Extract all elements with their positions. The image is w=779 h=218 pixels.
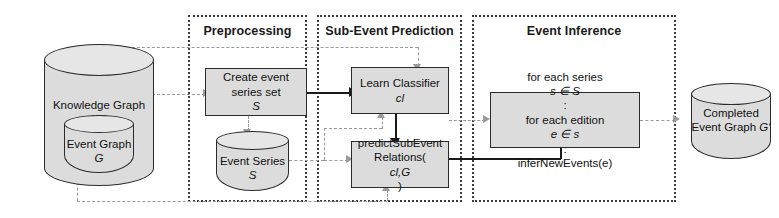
datastore-event-graph: Event Graph G <box>64 115 134 173</box>
learn-classifier-line1: Learn Classifier cl <box>360 76 440 105</box>
event-graph-symbol: G <box>95 152 104 164</box>
completed-event-graph-label-line1: Completed <box>703 107 759 119</box>
diagram-canvas: Preprocessing Sub-Event Prediction Event… <box>0 0 779 218</box>
event-series-label-line2: Series S <box>249 155 285 181</box>
create-event-series-line1: Create event <box>223 70 289 84</box>
edge-series-to-infer <box>449 120 485 121</box>
knowledge-graph-cylinder-top <box>44 44 154 76</box>
edge-event-series-to-predict <box>324 160 348 161</box>
edge-top-dashed-rail <box>132 47 418 48</box>
datastore-event-series: Event Series S <box>216 131 289 191</box>
event-series-label-line1: Event <box>220 155 249 167</box>
edge-event-series-riser <box>324 128 325 160</box>
predict-sub-event-line1: predictSubEvent <box>358 136 442 150</box>
process-predict-sub-event-relations: predictSubEvent Relations(cl,G) <box>351 141 449 188</box>
phase-title-sub-event-prediction: Sub-Event Prediction <box>313 24 466 38</box>
event-graph-label-line1: Event <box>67 138 96 150</box>
completed-event-graph-label: Completed Event Graph G′ <box>691 106 771 135</box>
datastore-completed-event-graph: Completed Event Graph G′ <box>691 83 771 159</box>
process-learn-classifier: Learn Classifier cl <box>351 67 449 114</box>
edge-infer-to-completed-arrowhead <box>673 115 680 123</box>
infer-new-events-series-symbol: s ∈ S <box>518 84 613 98</box>
event-series-symbol: S <box>249 169 257 181</box>
infer-new-events-line1: for each series s ∈ S: <box>518 70 613 113</box>
event-graph-label-line2: Graph G <box>95 138 132 164</box>
infer-new-events-edition-symbol: e ∈ s <box>518 127 613 141</box>
edge-bottom-rail <box>77 201 387 202</box>
event-series-cylinder-top <box>216 131 289 150</box>
predict-sub-event-line2: Relations(cl,G) <box>358 150 442 193</box>
infer-new-events-line3: inferNewEvents(e) <box>518 156 613 170</box>
event-graph-label: Event Graph G <box>64 137 134 166</box>
completed-event-graph-symbol: G′ <box>759 121 770 133</box>
edge-learn-classifier-feed-riser <box>382 117 383 129</box>
edge-event-series-out <box>289 160 324 161</box>
edge-series-to-infer-arrowhead <box>483 115 490 123</box>
edge-create-to-learn-classifier <box>307 92 351 94</box>
create-event-series-symbol: S <box>223 99 289 113</box>
event-graph-cylinder-top <box>64 115 134 133</box>
process-create-event-series-set: Create event series set S <box>205 68 307 116</box>
completed-event-graph-label-line2: Event Graph <box>692 121 757 133</box>
create-event-series-line2: series set S <box>223 85 289 114</box>
completed-event-graph-cylinder-top <box>691 83 771 105</box>
process-infer-new-events: for each series s ∈ S: for each edition … <box>490 92 640 148</box>
knowledge-graph-label-line1: Knowledge <box>53 99 110 111</box>
phase-title-event-inference: Event Inference <box>472 24 676 38</box>
infer-new-events-line2: for each edition e ∈ s: <box>518 113 613 156</box>
predict-sub-event-symbol: cl,G <box>358 165 442 179</box>
event-series-label: Event Series S <box>216 154 289 183</box>
edge-event-series-to-learn-classifier <box>324 128 382 129</box>
learn-classifier-symbol: cl <box>360 91 440 105</box>
edge-infer-to-completed <box>640 120 675 121</box>
phase-title-preprocessing: Preprocessing <box>188 24 307 38</box>
